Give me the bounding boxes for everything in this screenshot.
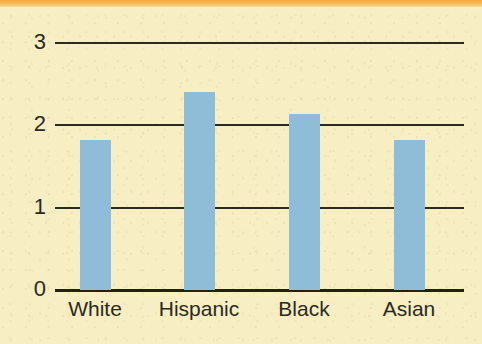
x-tick-label-hispanic: Hispanic bbox=[139, 297, 259, 321]
y-tick-label-2: 2 bbox=[8, 113, 46, 135]
gridline-y-2 bbox=[55, 124, 464, 126]
x-tick-label-asian: Asian bbox=[349, 297, 469, 321]
y-tick-label-3: 3 bbox=[8, 31, 46, 53]
bar-white[interactable] bbox=[80, 140, 111, 290]
x-tick-label-white: White bbox=[35, 297, 155, 321]
plot-area: 3 2 1 0 White Hispanic Black Asian bbox=[0, 0, 482, 344]
bar-black[interactable] bbox=[289, 114, 320, 290]
y-tick-label-1: 1 bbox=[8, 196, 46, 218]
x-tick-label-black: Black bbox=[244, 297, 364, 321]
bar-hispanic[interactable] bbox=[184, 92, 215, 290]
bar-asian[interactable] bbox=[394, 140, 425, 290]
gridline-y-3 bbox=[55, 42, 464, 44]
bar-chart: 3 2 1 0 White Hispanic Black Asian bbox=[0, 0, 482, 344]
